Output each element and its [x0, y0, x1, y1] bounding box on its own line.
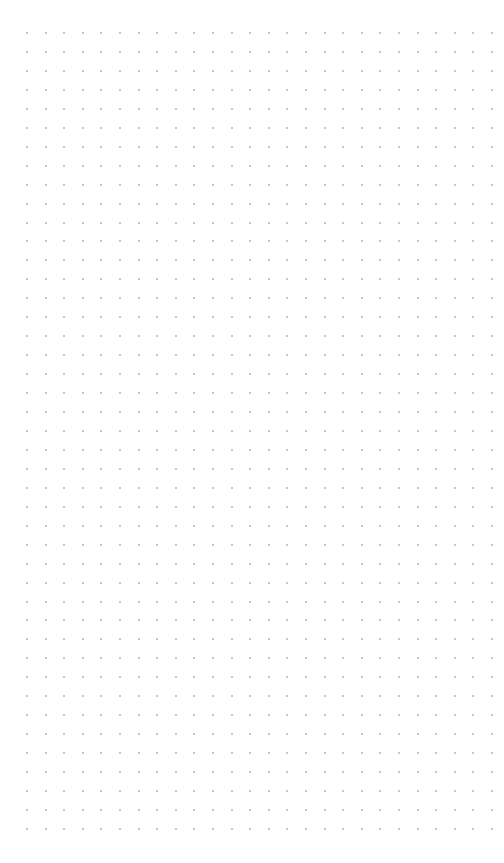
grid-dot — [156, 146, 158, 148]
grid-dot — [472, 582, 474, 584]
grid-dot — [379, 392, 381, 394]
grid-dot — [268, 601, 270, 603]
grid-dot — [268, 752, 270, 754]
grid-dot — [119, 316, 121, 318]
grid-dot — [212, 468, 214, 470]
grid-dot — [119, 70, 121, 72]
dot-grid-canvas[interactable] — [0, 0, 504, 863]
grid-dot — [82, 51, 84, 53]
grid-dot — [45, 809, 47, 811]
grid-dot — [231, 582, 233, 584]
grid-dot — [138, 222, 140, 224]
grid-dot — [268, 619, 270, 621]
grid-dot — [193, 278, 195, 280]
grid-dot — [82, 563, 84, 565]
grid-dot — [175, 733, 177, 735]
grid-dot — [231, 563, 233, 565]
grid-dot — [175, 184, 177, 186]
grid-dot — [249, 657, 251, 659]
grid-dot — [249, 278, 251, 280]
grid-dot — [119, 733, 121, 735]
grid-dot — [472, 525, 474, 527]
grid-dot — [491, 392, 493, 394]
grid-dot — [472, 619, 474, 621]
grid-dot — [398, 411, 400, 413]
grid-dot — [305, 638, 307, 640]
grid-dot — [156, 733, 158, 735]
grid-dot — [361, 619, 363, 621]
grid-dot — [138, 449, 140, 451]
grid-dot — [119, 619, 121, 621]
grid-dot — [379, 790, 381, 792]
grid-dot — [324, 259, 326, 261]
grid-dot — [417, 563, 419, 565]
grid-dot — [361, 525, 363, 527]
grid-dot — [231, 714, 233, 716]
grid-dot — [212, 222, 214, 224]
grid-dot — [305, 430, 307, 432]
grid-dot — [379, 108, 381, 110]
grid-dot — [379, 259, 381, 261]
grid-dot — [491, 733, 493, 735]
grid-dot — [100, 240, 102, 242]
grid-dot — [398, 828, 400, 830]
grid-dot — [212, 108, 214, 110]
grid-dot — [26, 733, 28, 735]
grid-dot — [119, 165, 121, 167]
grid-dot — [342, 638, 344, 640]
grid-dot — [119, 127, 121, 129]
grid-dot — [249, 411, 251, 413]
grid-dot — [379, 316, 381, 318]
grid-dot — [175, 468, 177, 470]
grid-dot — [286, 468, 288, 470]
grid-dot — [361, 222, 363, 224]
grid-dot — [231, 108, 233, 110]
grid-dot — [454, 563, 456, 565]
grid-dot — [417, 278, 419, 280]
grid-dot — [82, 657, 84, 659]
grid-dot — [63, 32, 65, 34]
grid-dot — [398, 809, 400, 811]
grid-dot — [268, 354, 270, 356]
grid-dot — [342, 525, 344, 527]
grid-dot — [249, 32, 251, 34]
grid-dot — [324, 70, 326, 72]
grid-dot — [26, 449, 28, 451]
grid-dot — [342, 582, 344, 584]
grid-dot — [156, 771, 158, 773]
grid-dot — [305, 752, 307, 754]
grid-dot — [324, 676, 326, 678]
grid-dot — [63, 544, 65, 546]
grid-dot — [379, 601, 381, 603]
grid-dot — [305, 89, 307, 91]
grid-dot — [361, 544, 363, 546]
grid-dot — [249, 184, 251, 186]
grid-dot — [454, 51, 456, 53]
grid-dot — [212, 335, 214, 337]
grid-dot — [435, 544, 437, 546]
grid-dot — [472, 695, 474, 697]
grid-dot — [26, 828, 28, 830]
grid-dot — [305, 297, 307, 299]
grid-dot — [286, 430, 288, 432]
grid-dot — [472, 449, 474, 451]
grid-dot — [249, 165, 251, 167]
grid-dot — [286, 676, 288, 678]
grid-dot — [119, 278, 121, 280]
grid-dot — [324, 108, 326, 110]
grid-dot — [175, 676, 177, 678]
grid-dot — [454, 222, 456, 224]
grid-dot — [82, 733, 84, 735]
grid-dot — [454, 525, 456, 527]
grid-dot — [491, 657, 493, 659]
grid-dot — [324, 373, 326, 375]
grid-dot — [324, 487, 326, 489]
grid-dot — [491, 373, 493, 375]
grid-dot — [63, 278, 65, 280]
grid-dot — [138, 563, 140, 565]
grid-dot — [45, 203, 47, 205]
grid-dot — [231, 525, 233, 527]
grid-dot — [156, 184, 158, 186]
grid-dot — [268, 70, 270, 72]
grid-dot — [45, 335, 47, 337]
